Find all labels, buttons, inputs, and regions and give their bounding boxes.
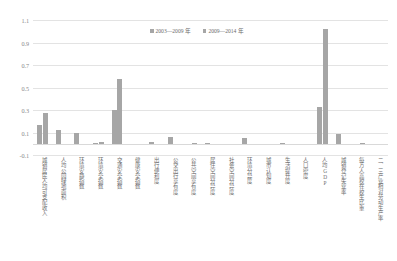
x-axis-category-label: 城镇居民人均可支配收入: [38, 157, 47, 215]
bar-group: [89, 20, 108, 155]
x-axis-category-label: 交通安全指数: [113, 157, 122, 189]
plot-area: [33, 20, 388, 155]
y-axis-tick-label: 0.7: [5, 62, 29, 69]
x-axis-category-labels: 城镇居民人均可支配收入人均公园绿地面积环境安静指数环境安全指数交通安全指数健康安…: [33, 157, 388, 261]
gridline: [33, 155, 388, 156]
bar: [323, 29, 328, 144]
legend-label: 2009—2014 年: [208, 27, 243, 35]
x-axis-category-label: 人均公园绿地面积: [57, 157, 66, 199]
bar-group: [220, 20, 239, 155]
x-axis-category-label: 出行便利度: [150, 157, 159, 184]
bar: [280, 143, 285, 144]
bar-group: [126, 20, 145, 155]
bar: [43, 113, 48, 143]
bar-group: [313, 20, 332, 155]
x-axis-category-label: 城市认知度: [262, 157, 271, 184]
x-axis-category-label: 人口密度: [299, 157, 308, 178]
y-axis-tick-label: -0.1: [5, 152, 29, 159]
y-axis-tick-label: 0.1: [5, 129, 29, 136]
x-axis-category-label: 公交出行享有度: [169, 157, 178, 194]
bar: [99, 142, 104, 144]
x-axis-category-label: 居住空间分异度: [206, 157, 215, 194]
x-axis-category-label: 二、三产业相对劳动生产率: [374, 157, 383, 221]
bar: [56, 130, 61, 144]
bar: [192, 143, 197, 144]
x-axis-category-label: 环境分异度: [243, 157, 252, 184]
bar-series-container: [33, 20, 388, 155]
bar-group: [201, 20, 220, 155]
bar: [149, 142, 154, 144]
x-axis-category-label: 人均GDP: [318, 157, 327, 187]
bar: [205, 143, 210, 144]
y-axis-tick-label: 0.5: [5, 84, 29, 91]
x-axis-category-label: 公共空间享有度: [187, 157, 196, 194]
bar: [317, 107, 322, 144]
bar-group: [257, 20, 276, 155]
x-axis-category-label: 健康安全指数: [131, 157, 140, 189]
bar: [37, 125, 42, 144]
legend-swatch-icon: [150, 29, 154, 33]
bar: [168, 137, 173, 144]
legend-item-1: 2009—2014 年: [203, 27, 244, 35]
bar-group: [145, 20, 164, 155]
x-axis-category-label: 环境安静指数: [75, 157, 84, 189]
y-axis-tick-label: 0.3: [5, 107, 29, 114]
bar-group: [239, 20, 258, 155]
bar-chart: 1.10.90.70.50.30.1-0.1 2003—2009 年 2009—…: [0, 0, 397, 261]
legend-swatch-icon: [203, 29, 207, 33]
bar: [360, 143, 365, 144]
bar: [112, 110, 117, 144]
y-axis-tick-label: 1.1: [5, 17, 29, 24]
x-axis-category-label: 每万人高校在校生比重: [355, 157, 364, 210]
x-axis-category-label: 生活提升度: [281, 157, 290, 184]
bar-group: [52, 20, 71, 155]
bar-group: [108, 20, 127, 155]
y-axis-tick-label: 0.9: [5, 39, 29, 46]
bar-group: [295, 20, 314, 155]
bar-group: [70, 20, 89, 155]
bar: [117, 79, 122, 144]
x-axis-category-label: 城镇登记失业率: [337, 157, 346, 194]
bar: [336, 134, 341, 144]
bar: [242, 138, 247, 144]
bar-group: [164, 20, 183, 155]
legend-item-0: 2003—2009 年: [150, 27, 191, 35]
bar: [74, 133, 79, 144]
bar-group: [182, 20, 201, 155]
bar-group: [33, 20, 52, 155]
bar: [93, 143, 98, 144]
bar-group: [351, 20, 370, 155]
bar-group: [332, 20, 351, 155]
x-axis-category-label: 社会空间分异度: [225, 157, 234, 194]
x-axis-category-label: 环境安全指数: [94, 157, 103, 189]
bar-group: [276, 20, 295, 155]
legend-label: 2003—2009 年: [156, 27, 191, 35]
bar-group: [369, 20, 388, 155]
legend: 2003—2009 年 2009—2014 年: [150, 27, 244, 35]
